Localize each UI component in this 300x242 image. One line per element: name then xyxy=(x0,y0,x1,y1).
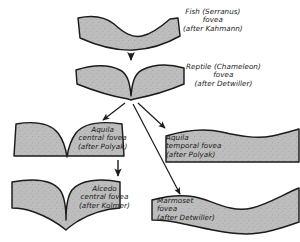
figure-canvas xyxy=(0,0,300,242)
caption-line: (after Kolmer) xyxy=(79,202,130,210)
caption-line: (after Polyak) xyxy=(78,143,127,151)
fovea-comparison-figure: Fish (Serranus) fovea (after Kahmann) Re… xyxy=(0,0,300,242)
caption-line: (after Detwiller) xyxy=(186,80,261,88)
caption-line: (after Detwiller) xyxy=(157,214,215,222)
reptile-fovea-shape xyxy=(76,65,184,100)
aquila-central-fovea-caption: Aquila central fovea (after Polyak) xyxy=(78,126,127,151)
marmoset-fovea-caption: Marmoset fovea (after Detwiller) xyxy=(157,197,215,222)
aquila-temporal-fovea-caption: Aquila temporal fovea (after Polyak) xyxy=(166,134,222,159)
reptile-fovea-caption: Reptile (Chameleon) fovea (after Detwill… xyxy=(186,63,261,88)
arrow-reptile-to-aquila-central xyxy=(103,103,125,120)
fish-fovea-caption: Fish (Serranus) fovea (after Kahmann) xyxy=(183,8,243,33)
caption-line: (after Polyak) xyxy=(166,151,222,159)
alcedo-central-fovea-caption: Alcedo central fovea (after Kolmer) xyxy=(79,185,130,210)
arrow-reptile-to-aquila-temporal xyxy=(138,103,165,128)
caption-line: (after Kahmann) xyxy=(183,25,243,33)
fish-fovea-shape xyxy=(78,16,180,50)
